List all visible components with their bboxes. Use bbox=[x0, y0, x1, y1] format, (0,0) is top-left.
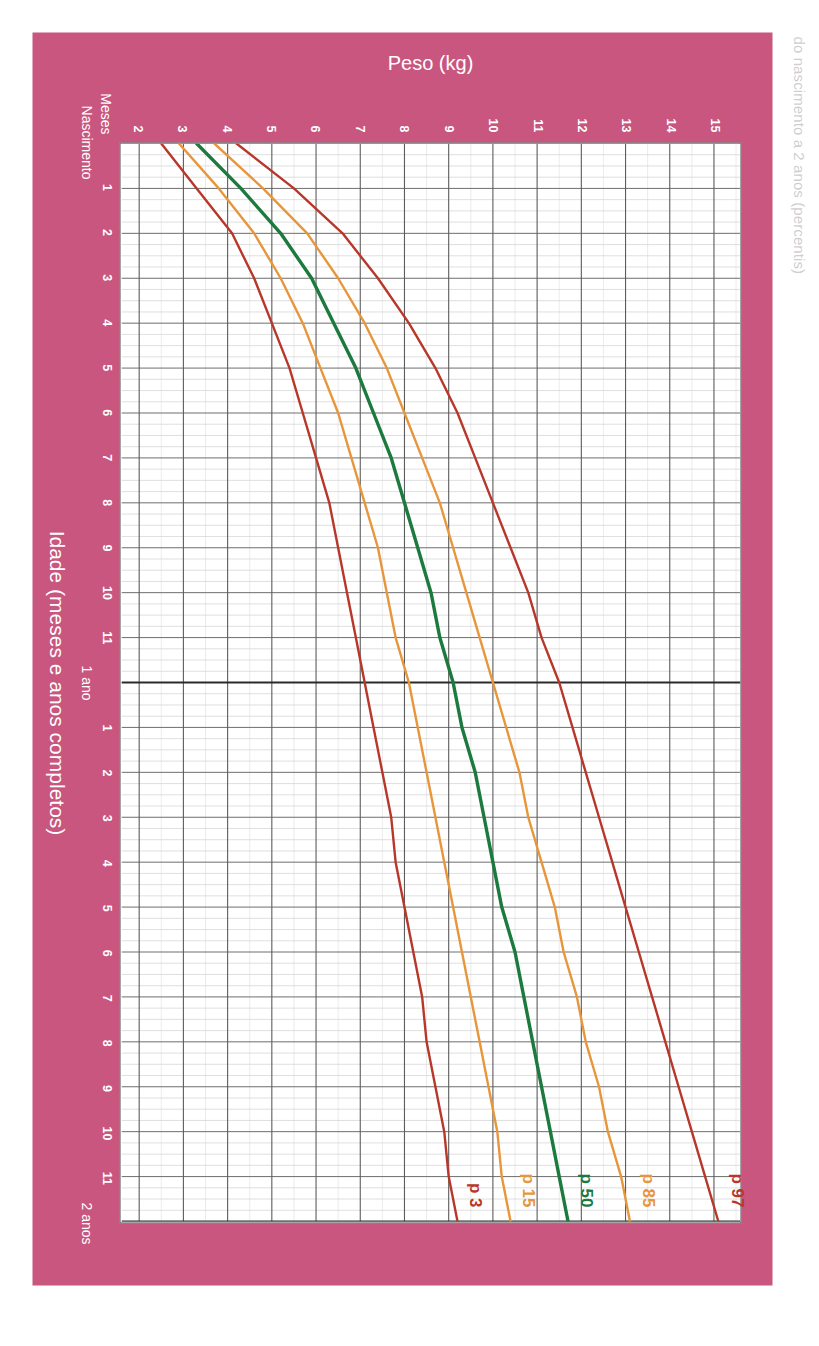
x-axis-unit-label: Meses bbox=[98, 50, 112, 134]
curve-label-p15: p 15 bbox=[519, 1173, 536, 1207]
x-tick-label: 6 bbox=[100, 409, 113, 416]
rotated-poster-wrapper: do nascimento a 2 anos (percentis) 12345… bbox=[0, 0, 819, 1346]
plot-area bbox=[119, 142, 741, 1223]
x-tick-label: 8 bbox=[100, 1039, 113, 1046]
x-tick-label: 1 bbox=[100, 724, 113, 731]
y-axis-title: Peso (kg) bbox=[360, 52, 500, 72]
x-tick-label: 5 bbox=[100, 904, 113, 911]
y-tick-label: 11 bbox=[530, 98, 543, 132]
x-tick-label: 3 bbox=[100, 274, 113, 281]
x-tick-label: 3 bbox=[100, 814, 113, 821]
x-tick-label: 7 bbox=[100, 994, 113, 1001]
x-tick-label: 10 bbox=[100, 1126, 113, 1140]
y-tick-label: 10 bbox=[486, 98, 499, 132]
poster-sheet: do nascimento a 2 anos (percentis) 12345… bbox=[0, 0, 819, 1346]
y-tick-label: 13 bbox=[619, 98, 632, 132]
curve-label-p97: p 97 bbox=[728, 1173, 745, 1207]
y-tick-label: 14 bbox=[664, 98, 677, 132]
x-axis-title: Idade (meses e anos completos) bbox=[46, 530, 67, 835]
y-tick-label: 4 bbox=[219, 98, 232, 132]
x-tick-label: 5 bbox=[100, 364, 113, 371]
x-tick-label: 11 bbox=[100, 631, 113, 644]
y-tick-label: 15 bbox=[708, 98, 721, 132]
x-tick-label: 4 bbox=[100, 319, 113, 326]
plot-svg bbox=[121, 143, 740, 1221]
curve-label-p3: p 3 bbox=[466, 1182, 483, 1207]
x-tick-label: 2 bbox=[100, 769, 113, 776]
y-tick-label: 2 bbox=[131, 98, 144, 132]
y-tick-label: 12 bbox=[575, 98, 588, 132]
y-tick-label: 9 bbox=[442, 98, 455, 132]
page-title: do nascimento a 2 anos (percentis) bbox=[790, 36, 807, 274]
x-tick-label: 6 bbox=[100, 949, 113, 956]
y-tick-label: 3 bbox=[175, 98, 188, 132]
curve-label-p50: p 50 bbox=[577, 1173, 594, 1207]
chart-panel: 12345678910111234567891011 2345678910111… bbox=[32, 32, 772, 1285]
y-tick-label: 6 bbox=[308, 98, 321, 132]
x-tick-label: 11 bbox=[100, 1171, 113, 1184]
x-tick-label: 8 bbox=[100, 499, 113, 506]
x-year-label-12: 1 ano bbox=[79, 665, 93, 700]
x-tick-label: 7 bbox=[100, 454, 113, 461]
x-tick-label: 9 bbox=[100, 1084, 113, 1091]
x-tick-label: 9 bbox=[100, 544, 113, 551]
x-tick-label: 1 bbox=[100, 184, 113, 191]
y-tick-label: 8 bbox=[397, 98, 410, 132]
x-tick-label: 2 bbox=[100, 229, 113, 236]
x-origin-label: Nascimento bbox=[79, 105, 93, 179]
y-tick-label: 7 bbox=[353, 98, 366, 132]
curve-label-p85: p 85 bbox=[639, 1173, 656, 1207]
y-tick-label: 5 bbox=[264, 98, 277, 132]
x-year-label-24: 2 anos bbox=[79, 1202, 93, 1244]
x-tick-label: 4 bbox=[100, 859, 113, 866]
x-tick-label: 10 bbox=[100, 585, 113, 599]
growth-chart-page: do nascimento a 2 anos (percentis) 12345… bbox=[0, 0, 819, 1346]
